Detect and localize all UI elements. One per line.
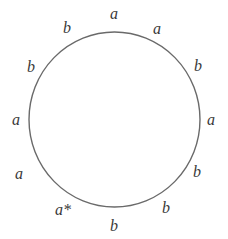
label-right-upper-b: b <box>194 58 202 74</box>
label-left-a: a <box>12 112 20 128</box>
label-lower-right-b: b <box>162 200 170 216</box>
diagram-canvas: aababbba*aabb <box>0 0 228 239</box>
cycle-circle-outline <box>29 32 200 207</box>
label-bottom-left-a-star: a* <box>55 202 71 218</box>
label-right-a: a <box>207 112 215 128</box>
label-top-a: a <box>110 6 118 22</box>
label-upper-left-b: b <box>63 20 71 36</box>
label-left-upper-b: b <box>27 59 35 75</box>
label-bottom-b: b <box>110 218 118 234</box>
label-right-lower-b: b <box>193 164 201 180</box>
label-left-lower-a: a <box>15 166 23 182</box>
circle-shape <box>0 0 228 239</box>
label-upper-right-a: a <box>153 21 161 37</box>
